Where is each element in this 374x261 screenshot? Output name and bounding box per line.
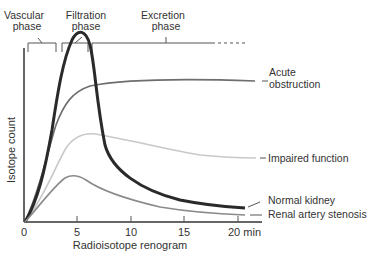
- leader-lines: [248, 81, 268, 215]
- label-acute-obstruction-2: obstruction: [269, 78, 321, 90]
- axes: [24, 48, 262, 222]
- label-normal-kidney: Normal kidney: [268, 194, 336, 206]
- curve-impaired-function: [25, 134, 256, 222]
- x-axis-label: Radioisotope renogram: [73, 239, 187, 251]
- x-tick-20: 20 min: [228, 226, 261, 238]
- curve-normal-kidney: [25, 32, 245, 222]
- curve-acute-obstruction: [25, 80, 255, 222]
- label-renal-artery-stenosis: Renal artery stenosis: [268, 208, 367, 220]
- phase-filtration-label-2: phase: [72, 20, 101, 32]
- x-tick-15: 15: [178, 226, 190, 238]
- phase-excretion-label-2: phase: [152, 20, 181, 32]
- x-tick-0: 0: [21, 226, 27, 238]
- label-impaired-function: Impaired function: [268, 152, 349, 164]
- y-axis-label: Isotope count: [5, 117, 17, 183]
- x-ticks: [77, 216, 238, 222]
- phase-vascular-label-2: phase: [13, 20, 42, 32]
- label-acute-obstruction: Acute: [269, 66, 296, 78]
- phase-brackets: [28, 37, 248, 52]
- x-tick-10: 10: [125, 226, 137, 238]
- renogram-chart: Vascular phase Filtration phase Excretio…: [0, 0, 374, 261]
- x-tick-5: 5: [74, 226, 80, 238]
